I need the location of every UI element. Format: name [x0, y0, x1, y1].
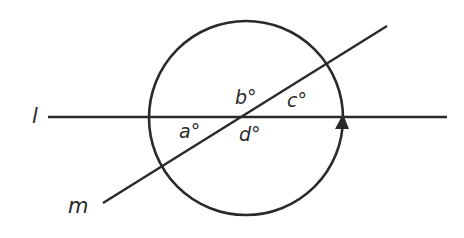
angle-c-label: c° [287, 91, 307, 110]
angle-b-label: b° [235, 88, 257, 107]
angle-d-label: d° [239, 125, 261, 144]
line-m [103, 26, 387, 203]
diagram: l m a° b° c° d° [0, 0, 464, 238]
line-l-label: l [32, 106, 38, 127]
angle-a-label: a° [179, 122, 200, 141]
line-m-label: m [68, 196, 88, 217]
